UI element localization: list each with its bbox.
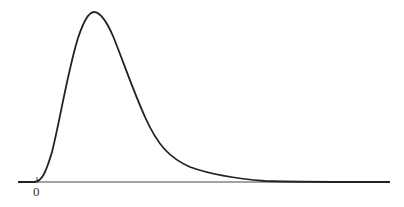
- x-tick-label-0: 0: [33, 184, 40, 199]
- density-chart: 0: [0, 0, 404, 207]
- density-curve: [18, 12, 390, 182]
